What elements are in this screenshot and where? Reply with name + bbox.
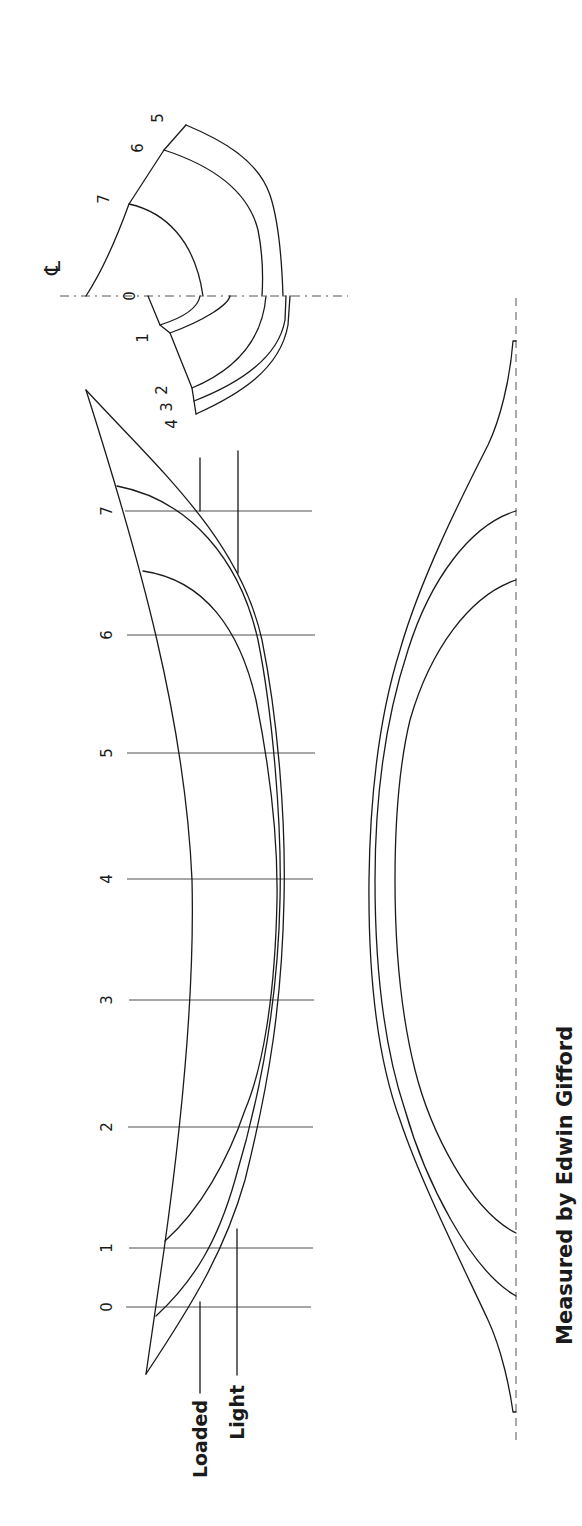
station-label-5: 5	[98, 748, 116, 758]
station-label-7: 7	[98, 506, 116, 516]
station-label-0: 0	[98, 1302, 116, 1312]
centerline-symbol: ℄	[40, 260, 65, 276]
body-plan: ℄ 5 6 7 0 1 2 3 4	[40, 113, 348, 429]
profile-keel-outer	[86, 390, 284, 1374]
light-label: Light	[226, 1385, 248, 1440]
body-plan-label-5: 5	[149, 113, 167, 123]
profile-hull-line-2	[117, 486, 280, 1316]
profile-view: 7 6 5 4 3 2 1 0 Loaded Light	[86, 390, 315, 1478]
body-plan-label-0: 0	[121, 291, 139, 301]
body-plan-label-2: 2	[153, 385, 171, 395]
body-plan-label-7: 7	[95, 194, 113, 204]
body-plan-sheer-lower	[148, 296, 196, 414]
body-plan-station-2	[192, 296, 266, 388]
station-label-4: 4	[98, 874, 116, 884]
half-breadth-middle	[375, 511, 516, 1296]
credit-text: Measured by Edwin Gifford	[553, 1026, 577, 1345]
body-plan-station-0	[160, 296, 200, 325]
loaded-label: Loaded	[189, 1400, 211, 1478]
station-label-3: 3	[98, 995, 116, 1005]
body-plan-station-7	[129, 204, 203, 296]
half-breadth-plan	[369, 298, 516, 1442]
body-plan-label-6: 6	[129, 143, 147, 153]
station-label-1: 1	[98, 1243, 116, 1253]
station-label-2: 2	[98, 1122, 116, 1132]
profile-hull-line-3	[143, 571, 277, 1241]
body-plan-station-5	[186, 125, 283, 296]
body-plan-label-1: 1	[134, 333, 152, 343]
body-plan-label-4: 4	[163, 419, 181, 429]
half-breadth-outer	[369, 341, 516, 1412]
body-plan-label-3: 3	[158, 402, 176, 412]
body-plan-station-3	[194, 296, 286, 401]
station-label-6: 6	[98, 630, 116, 640]
lines-drawing: ℄ 5 6 7 0 1 2 3 4	[0, 0, 582, 1526]
body-plan-station-1	[170, 296, 230, 333]
body-plan-station-6	[164, 150, 263, 296]
